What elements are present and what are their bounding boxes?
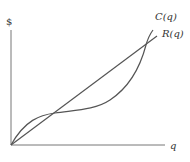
- cost-revenue-chart: $ q C(q) R(q): [0, 0, 190, 162]
- cost-curve: [11, 30, 153, 145]
- x-axis-label: q: [170, 140, 176, 151]
- cost-curve-label: C(q): [155, 11, 177, 22]
- revenue-line: [11, 36, 157, 145]
- revenue-curve-label: R(q): [161, 28, 184, 39]
- y-axis-label: $: [6, 16, 12, 27]
